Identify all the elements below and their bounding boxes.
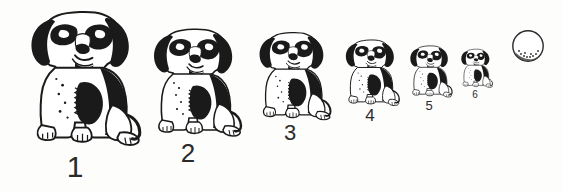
figure-canvas: 1 [0,0,563,192]
puppy-figure-3 [252,30,334,123]
puppy-figure-4 [340,38,402,108]
figure-number-label: 3 [265,122,315,144]
puppy-figure-6 [458,48,494,89]
puppy-figure-5 [406,44,454,99]
sitting-puppy-icon [406,44,454,99]
figure-number-label: 4 [348,107,392,124]
figure-number-label: 1 [45,152,105,182]
sitting-puppy-icon [252,30,334,123]
figure-number-label: 5 [410,99,448,112]
puppy-figure-1 [20,8,145,150]
sitting-puppy-icon [20,8,145,150]
puppy-figure-2 [145,26,245,140]
shaded-sphere-icon [511,29,545,63]
sitting-puppy-icon [145,26,245,140]
sitting-puppy-icon [458,48,494,89]
figure-number-label: 2 [160,140,216,166]
figure-number-label: 6 [460,90,490,100]
sitting-puppy-icon [340,38,402,108]
